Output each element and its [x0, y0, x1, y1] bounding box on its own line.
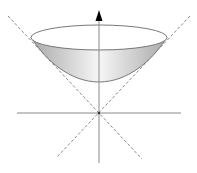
- arrow-up-icon: [96, 10, 103, 21]
- origin-point: [98, 112, 100, 114]
- hyperboloid-diagram: [0, 0, 197, 173]
